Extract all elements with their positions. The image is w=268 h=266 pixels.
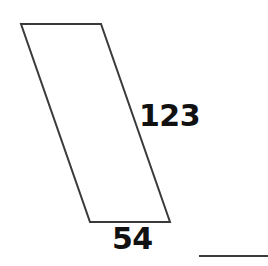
base-length-label: 54 xyxy=(112,224,153,254)
baseline-rule xyxy=(199,255,268,257)
side-length-label: 123 xyxy=(139,101,200,131)
figure-canvas: 123 54 xyxy=(0,0,268,266)
